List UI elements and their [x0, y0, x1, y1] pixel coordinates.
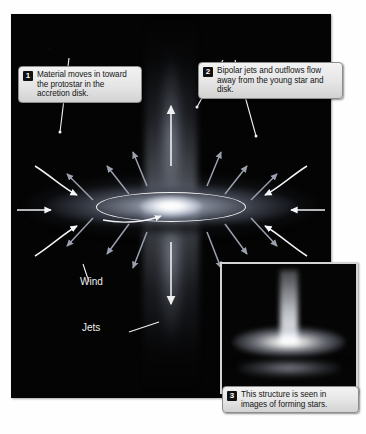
- callout-box-3: 3 This structure is seen in images of fo…: [222, 386, 359, 413]
- callout-box-1: 1 Material moves in toward the protostar…: [18, 66, 142, 103]
- wind-label: Wind: [80, 276, 103, 287]
- callout-badge-3: 3: [227, 391, 237, 401]
- figure-container: Wind Jets 1 Material moves in toward the…: [0, 0, 366, 434]
- outflow-arrows: [67, 152, 277, 268]
- callout-badge-2: 2: [203, 67, 213, 77]
- callout-text-1: Material moves in toward the protostar i…: [37, 70, 136, 99]
- inset-lower-band: [237, 360, 341, 377]
- callout-badge-1: 1: [23, 71, 33, 81]
- callout-text-2: Bipolar jets and outflows flow away from…: [217, 66, 337, 95]
- callout-box-2: 2 Bipolar jets and outflows flow away fr…: [198, 62, 343, 99]
- callout-text-3: This structure is seen in images of form…: [241, 390, 353, 409]
- jets-label: Jets: [82, 322, 100, 333]
- telescope-image-inset: [220, 262, 358, 394]
- inset-disk-glow: [233, 327, 345, 357]
